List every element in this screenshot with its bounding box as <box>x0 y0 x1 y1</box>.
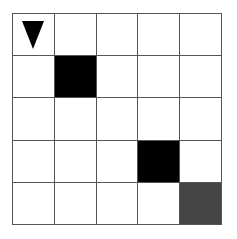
grid-cell <box>180 56 222 98</box>
triangle-down-icon <box>22 21 44 49</box>
goal-cell <box>180 183 222 225</box>
grid-cell <box>97 141 139 183</box>
grid-cell <box>138 56 180 98</box>
grid-cell <box>138 183 180 225</box>
grid-cell <box>97 98 139 140</box>
grid-cell <box>180 98 222 140</box>
grid-cell <box>180 141 222 183</box>
grid-cell <box>138 98 180 140</box>
grid-cell <box>55 141 97 183</box>
grid-cell <box>97 183 139 225</box>
grid-cell <box>13 183 55 225</box>
grid-cell <box>180 14 222 56</box>
grid-cell <box>55 98 97 140</box>
grid-cell <box>13 141 55 183</box>
grid-cell <box>55 14 97 56</box>
grid-cell <box>13 56 55 98</box>
grid-cell <box>138 14 180 56</box>
grid-cell <box>55 183 97 225</box>
gridworld-board <box>12 13 222 225</box>
grid-cell <box>97 56 139 98</box>
grid-cell <box>13 14 55 56</box>
grid-cell <box>13 98 55 140</box>
wall-cell <box>55 56 97 98</box>
grid-cell <box>97 14 139 56</box>
wall-cell <box>138 141 180 183</box>
